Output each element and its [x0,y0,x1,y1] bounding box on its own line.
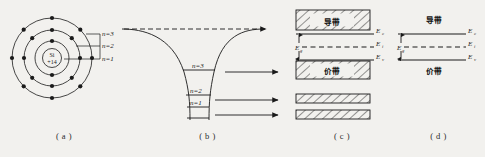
label-ei: E [375,40,381,48]
lower-hatched-bar-1 [296,94,370,103]
figure-container: Si +14 [0,0,485,157]
lower-hatched-bar-2 [296,110,370,119]
caption-d: ( d ) [392,131,485,141]
label-ec-sub: c [382,31,384,36]
label-ev-sub: v [382,57,385,62]
caption-b: ( b ) [120,131,295,141]
label-ec-sub: c [474,31,476,36]
label-ec: E [467,27,473,35]
well-label-n3: n=3 [192,62,204,70]
conduction-band-label: 导带 [426,15,442,25]
label-ec: E [375,27,381,35]
label-ei: E [467,40,473,48]
label-ev-sub: v [474,57,477,62]
shell-label-n2: n=2 [102,42,114,50]
well-label-n1: n=1 [190,99,202,107]
caption-a: ( a ) [0,131,128,141]
well-wall-left [122,29,190,120]
conduction-band-label: 导带 [324,17,340,27]
well-label-n2: n=2 [190,87,202,95]
gap-label-eg-sub: g [300,48,303,53]
nucleus-element-label: Si [49,52,54,58]
label-ei-sub: i [382,44,384,49]
label-ei-sub: i [474,44,476,49]
label-ev: E [375,53,381,61]
nucleus-charge-label: +14 [47,59,56,65]
panel-a-atom-diagram: Si +14 [0,0,128,157]
gap-label-eg-sub: g [402,48,405,53]
shell-label-n3: n=3 [102,30,114,38]
valence-band-label: 价带 [426,66,442,76]
panel-b-potential-well: n=3 n=2 n=1 ( b ) [120,0,295,157]
caption-c: ( c ) [288,131,396,141]
label-ev: E [467,53,473,61]
panel-c-band-diagram: 导带 价带 E g E c E i E v [288,0,396,157]
shell-label-n1: n=1 [102,55,114,63]
well-wall-right [209,29,264,120]
atom-shell-diagram: Si +14 [8,8,120,108]
panel-d-simplified-band-diagram: 导带 价带 E g E c E i E v ( d ) [392,0,485,157]
valence-band-label: 价带 [324,66,340,76]
